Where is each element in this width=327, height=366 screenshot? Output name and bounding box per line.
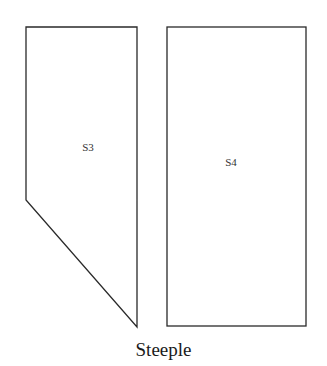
pattern-diagram: S3 S4 <box>0 0 327 366</box>
piece-s4-outline <box>167 27 306 326</box>
piece-s3-outline <box>26 27 137 327</box>
diagram-title: Steeple <box>136 339 192 361</box>
piece-s3-label: S3 <box>82 141 94 153</box>
piece-s4-label: S4 <box>225 156 237 168</box>
diagram-caption: Steeple <box>0 339 327 361</box>
